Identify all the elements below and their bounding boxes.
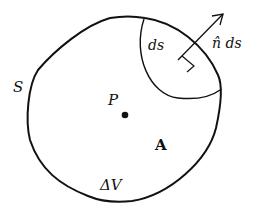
label-surface-s: S: [13, 80, 23, 95]
label-vector-a: A: [155, 138, 167, 153]
diagram-shapes: [0, 0, 259, 214]
right-angle-mark: [182, 56, 194, 72]
point-p-dot: [122, 112, 129, 119]
label-point-p: P: [108, 93, 118, 108]
label-normal-element: n̂ ds: [212, 36, 242, 50]
label-volume-dv: ΔV: [100, 178, 122, 193]
label-surface-element-ds: ds: [148, 38, 164, 52]
diagram-canvas: S P A ΔV ds n̂ ds: [0, 0, 259, 214]
surface-boundary: [28, 17, 221, 202]
